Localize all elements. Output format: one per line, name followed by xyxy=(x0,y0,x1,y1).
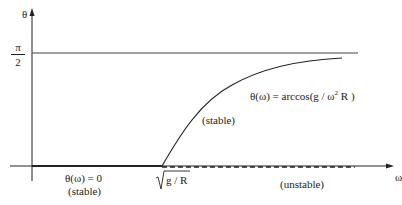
diagram-canvas xyxy=(0,0,402,205)
unstable-label: (unstable) xyxy=(280,179,324,190)
curve-formula-suffix: R ) xyxy=(338,90,355,102)
curve-stability-label: (stable) xyxy=(202,115,235,126)
y-axis-arrow-icon xyxy=(30,8,35,16)
x-axis-label: ω xyxy=(395,172,402,183)
zero-stability-label: (stable) xyxy=(68,186,101,197)
x-axis-arrow-icon xyxy=(386,164,394,169)
curve-formula: θ(ω) = arccos(g / ω2 R ) xyxy=(250,90,355,102)
zero-formula: θ(ω) = 0 xyxy=(65,173,102,184)
curve-formula-prefix: θ(ω) = arccos(g / ω xyxy=(250,90,335,102)
y-tick-numerator: π xyxy=(11,41,25,55)
y-axis-label: θ xyxy=(22,9,27,20)
y-tick-pi-over-2: π 2 xyxy=(11,41,25,68)
critical-omega-label: g / R xyxy=(166,175,187,186)
stable-arccos-curve xyxy=(162,58,342,166)
y-tick-denominator: 2 xyxy=(11,55,25,68)
